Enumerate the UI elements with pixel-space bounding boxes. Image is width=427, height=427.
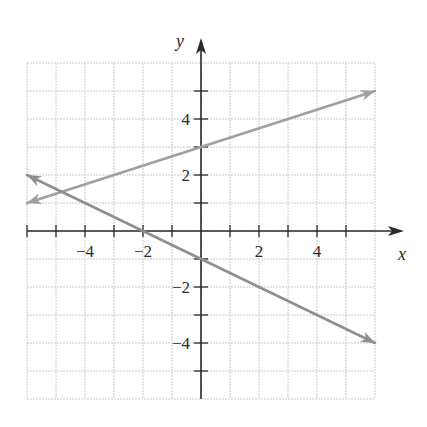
x-tick-label: −4: [76, 242, 95, 261]
tick-labels: −4−22442−2−4xy: [76, 31, 406, 353]
axes: [27, 38, 404, 399]
y-tick-label: 2: [182, 166, 191, 185]
x-axis-label: x: [397, 244, 406, 264]
coordinate-plane: −4−22442−2−4xy: [0, 0, 427, 427]
x-tick-label: 4: [313, 242, 322, 261]
y-tick-label: −4: [172, 334, 191, 353]
x-tick-label: −2: [134, 242, 152, 261]
y-tick-label: 4: [182, 110, 191, 129]
y-axis-label: y: [174, 31, 184, 51]
x-tick-label: 2: [255, 242, 264, 261]
y-tick-label: −2: [172, 278, 190, 297]
